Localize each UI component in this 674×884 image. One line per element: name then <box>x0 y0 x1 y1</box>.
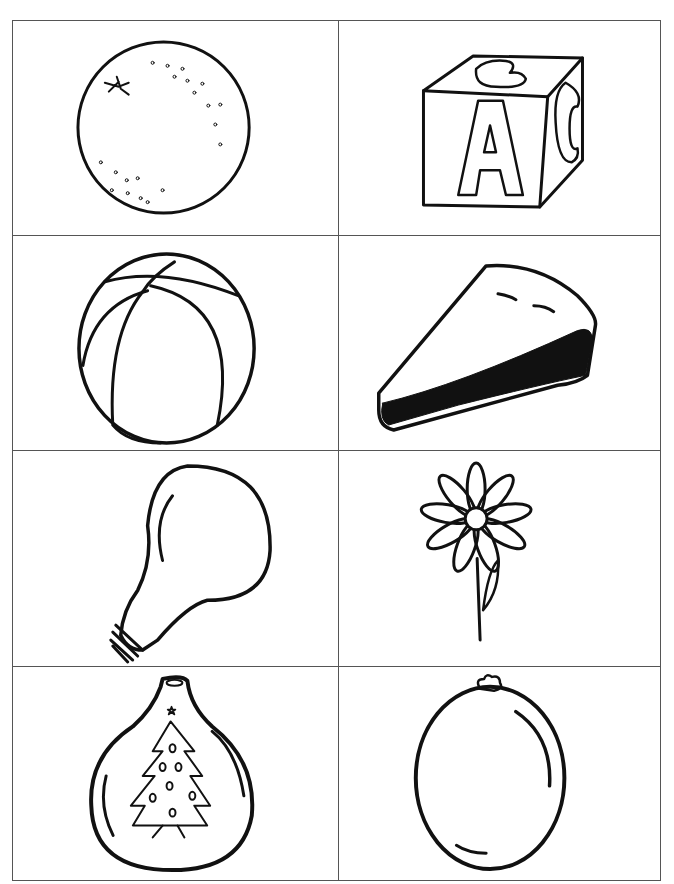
card-ball <box>13 236 339 451</box>
light-bulb-icon <box>13 451 338 666</box>
card-balloon <box>339 667 660 880</box>
abc-block-icon <box>339 21 660 235</box>
ornament-icon <box>13 667 338 880</box>
orange-icon <box>13 21 338 235</box>
pie-slice-icon <box>339 236 660 450</box>
card-light-bulb <box>13 451 339 667</box>
ball-icon <box>13 236 338 450</box>
balloon-icon <box>339 667 660 880</box>
card-flower <box>339 451 660 667</box>
card-abc-block <box>339 21 660 236</box>
card-pie-slice <box>339 236 660 451</box>
picture-card-grid <box>12 20 661 881</box>
card-orange <box>13 21 339 236</box>
card-ornament <box>13 667 339 880</box>
flower-icon <box>339 451 660 666</box>
